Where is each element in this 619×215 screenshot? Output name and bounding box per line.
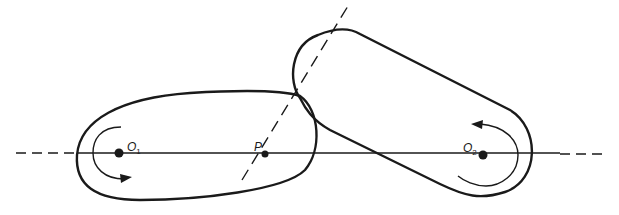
label-o2-sub: 2	[472, 148, 476, 157]
label-o1-main: O	[127, 140, 136, 154]
cam-2-outline	[293, 30, 532, 197]
pivot-o1	[115, 149, 124, 158]
label-o1: O1	[127, 141, 141, 156]
pitch-point-p	[262, 151, 269, 158]
label-o2-main: O	[463, 141, 472, 155]
cam-diagram	[0, 0, 619, 215]
label-p: P	[254, 141, 262, 153]
label-o1-sub: 1	[136, 147, 140, 156]
pivot-o2	[479, 151, 488, 160]
line-of-centers	[16, 153, 604, 154]
label-o2: O2	[463, 142, 477, 157]
cam-1-outline	[77, 91, 317, 200]
diagram-canvas: O1 P O2	[0, 0, 619, 215]
label-p-main: P	[254, 140, 262, 154]
